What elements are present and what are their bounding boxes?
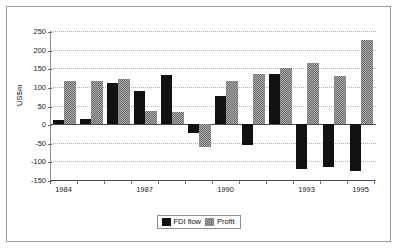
y-tick-label: -50 (35, 140, 46, 148)
bar-group (269, 31, 291, 180)
x-tick-mark (104, 180, 105, 184)
y-axis-title: US$m (15, 85, 24, 106)
x-tick-mark (266, 180, 267, 184)
y-tick-label: 0 (42, 121, 46, 129)
bar-fdi-flow (269, 74, 280, 124)
x-tick-label: 1987 (136, 186, 153, 194)
y-tick-label: -150 (31, 177, 46, 185)
bar-fdi-flow (296, 124, 307, 169)
bar-fdi-flow (188, 124, 199, 133)
x-axis: 19841987199019931995 (50, 180, 375, 202)
bar-group (242, 31, 264, 180)
bar-fdi-flow (80, 119, 91, 125)
x-tick-mark (293, 180, 294, 184)
bar-group (107, 31, 129, 180)
bar-profit (199, 124, 210, 147)
bar-fdi-flow (323, 124, 334, 167)
bar-fdi-flow (242, 124, 253, 144)
y-tick-label: 200 (33, 47, 46, 55)
x-tick-label: 1990 (217, 186, 234, 194)
legend-label: Profit (217, 218, 235, 226)
bar-profit (334, 76, 345, 124)
legend-label: FDI flow (173, 218, 201, 226)
legend-swatch-fdi-flow (161, 218, 170, 226)
bar-group (134, 31, 156, 180)
y-tick-label: 250 (33, 28, 46, 36)
bar-fdi-flow (161, 75, 172, 124)
bar-profit (172, 112, 183, 124)
bar-group (53, 31, 75, 180)
bar-profit (280, 68, 291, 125)
legend-entry: Profit (205, 218, 235, 226)
bars-layer (51, 31, 375, 180)
x-tick-label: 1995 (352, 186, 369, 194)
bar-fdi-flow (134, 91, 145, 125)
bar-profit (118, 79, 129, 124)
bar-profit (226, 81, 237, 124)
x-tick-mark (320, 180, 321, 184)
bar-profit (91, 81, 102, 124)
bar-profit (64, 81, 75, 124)
y-tick-label: 100 (33, 84, 46, 92)
plot-area: 250200150100500-50-100-150 (50, 31, 375, 180)
bar-group (215, 31, 237, 180)
bar-fdi-flow (215, 96, 226, 124)
legend-entry: FDI flow (161, 218, 201, 226)
bar-profit (253, 74, 264, 124)
y-tick-label: 150 (33, 66, 46, 74)
x-tick-mark (212, 180, 213, 184)
bar-fdi-flow (107, 83, 118, 124)
x-tick-mark (131, 180, 132, 184)
y-tick-label: -100 (31, 159, 46, 167)
x-tick-mark (374, 180, 375, 184)
x-tick-mark (158, 180, 159, 184)
bar-group (188, 31, 210, 180)
x-tick-mark (347, 180, 348, 184)
x-tick-mark (185, 180, 186, 184)
chart-frame: US$m 250200150100500-50-100-150 19841987… (6, 6, 391, 242)
x-tick-mark (50, 180, 51, 184)
x-tick-mark (77, 180, 78, 184)
bar-fdi-flow (350, 124, 361, 171)
x-tick-label: 1993 (298, 186, 315, 194)
bar-group (161, 31, 183, 180)
chart-legend: FDI flowProfit (156, 215, 240, 229)
bar-profit (361, 40, 372, 124)
bar-profit (307, 63, 318, 124)
y-tick-label: 50 (38, 103, 46, 111)
bar-group (296, 31, 318, 180)
bar-profit (145, 111, 156, 124)
bar-group (80, 31, 102, 180)
x-tick-mark (239, 180, 240, 184)
legend-swatch-profit (205, 218, 214, 226)
x-tick-label: 1984 (55, 186, 72, 194)
bar-group (323, 31, 345, 180)
bar-group (350, 31, 372, 180)
bar-fdi-flow (53, 120, 64, 124)
